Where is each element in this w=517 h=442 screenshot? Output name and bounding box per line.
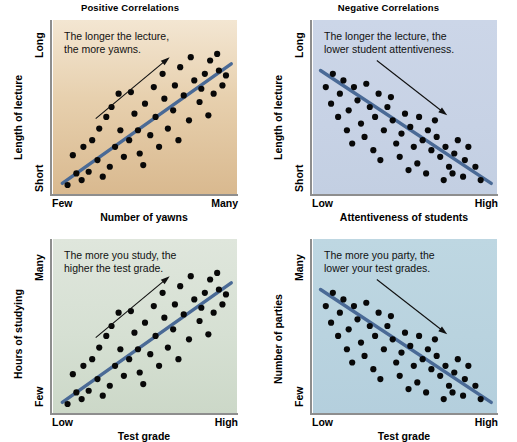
data-point bbox=[330, 71, 336, 77]
x-axis-line bbox=[50, 194, 238, 196]
data-point bbox=[156, 144, 162, 150]
data-point bbox=[186, 336, 192, 342]
data-point bbox=[177, 283, 183, 289]
data-point bbox=[191, 77, 197, 83]
panel-negative-lecture-attentiveness: Negative Correlations Length of lecture … bbox=[260, 0, 517, 219]
data-point bbox=[219, 82, 225, 88]
data-point bbox=[478, 396, 484, 402]
data-point bbox=[152, 333, 158, 339]
data-point bbox=[198, 305, 204, 311]
direction-arrow-shaft bbox=[377, 61, 442, 111]
data-point bbox=[472, 164, 478, 170]
data-point bbox=[216, 67, 222, 73]
data-point bbox=[205, 331, 211, 337]
x-axis-title: Test grade bbox=[50, 430, 238, 442]
x-axis-high-label: High bbox=[428, 197, 498, 209]
data-point bbox=[196, 318, 202, 324]
data-point bbox=[152, 114, 158, 120]
y-axis-line bbox=[50, 20, 52, 196]
data-point bbox=[344, 127, 350, 133]
data-point bbox=[451, 150, 457, 156]
x-axis-high-label: High bbox=[168, 416, 238, 428]
data-point bbox=[330, 290, 336, 296]
direction-arrow-head bbox=[438, 107, 447, 115]
data-point bbox=[172, 301, 178, 307]
data-point bbox=[140, 381, 146, 387]
data-point bbox=[441, 177, 447, 183]
data-point bbox=[64, 182, 70, 188]
data-point bbox=[137, 369, 143, 375]
data-point bbox=[175, 137, 181, 143]
data-point bbox=[441, 396, 447, 402]
x-axis-line bbox=[310, 413, 498, 415]
data-point bbox=[432, 117, 438, 123]
data-point bbox=[216, 286, 222, 292]
y-axis-line bbox=[310, 20, 312, 196]
panel-caption: The more you study, the higher the test … bbox=[64, 249, 239, 275]
data-point bbox=[416, 333, 422, 339]
y-axis-title: Number of parties bbox=[272, 294, 284, 384]
data-point bbox=[151, 84, 157, 90]
y-axis-low-label: Short bbox=[33, 165, 45, 192]
data-point bbox=[472, 383, 478, 389]
data-point bbox=[80, 363, 86, 369]
data-point bbox=[407, 343, 413, 349]
data-point bbox=[398, 130, 404, 136]
direction-arrow-head bbox=[438, 326, 447, 334]
data-point bbox=[449, 170, 455, 176]
data-point bbox=[140, 162, 146, 168]
data-point bbox=[367, 104, 373, 110]
y-axis-title: Length of lecture bbox=[12, 75, 24, 160]
data-point bbox=[377, 376, 383, 382]
data-point bbox=[198, 86, 204, 92]
data-point bbox=[186, 117, 192, 123]
data-point bbox=[462, 376, 468, 382]
data-point bbox=[73, 389, 79, 395]
y-axis-high-label: Long bbox=[33, 32, 45, 58]
data-point bbox=[340, 77, 346, 83]
data-point bbox=[100, 393, 106, 399]
data-point bbox=[94, 376, 100, 382]
data-point bbox=[135, 346, 141, 352]
data-point bbox=[460, 174, 466, 180]
data-point bbox=[437, 373, 443, 379]
data-point bbox=[64, 401, 70, 407]
data-point bbox=[165, 344, 171, 350]
data-point bbox=[196, 99, 202, 105]
x-axis-low-label: Low bbox=[312, 416, 333, 428]
data-point bbox=[393, 140, 399, 146]
data-point bbox=[442, 363, 448, 369]
data-point bbox=[414, 379, 420, 385]
x-axis-line bbox=[310, 194, 498, 196]
data-point bbox=[205, 112, 211, 118]
data-point bbox=[160, 71, 166, 77]
data-point bbox=[354, 316, 360, 322]
data-point bbox=[465, 144, 471, 150]
data-point bbox=[405, 386, 411, 392]
data-point bbox=[478, 177, 484, 183]
data-point bbox=[70, 371, 76, 377]
data-point bbox=[94, 157, 100, 163]
trend-line bbox=[62, 283, 231, 403]
data-point bbox=[147, 351, 153, 357]
data-point bbox=[351, 84, 357, 90]
data-point bbox=[323, 84, 329, 90]
data-point bbox=[420, 356, 426, 362]
data-point bbox=[372, 114, 378, 120]
panel-positive-study-grade: Hours of studying Many Few The more you … bbox=[0, 219, 260, 438]
data-point bbox=[428, 366, 434, 372]
data-point bbox=[397, 154, 403, 160]
data-point bbox=[446, 383, 452, 389]
data-point bbox=[117, 127, 123, 133]
data-point bbox=[416, 114, 422, 120]
data-point bbox=[423, 389, 429, 395]
data-point bbox=[388, 313, 394, 319]
data-point bbox=[451, 369, 457, 375]
y-axis-low-label: Short bbox=[293, 165, 305, 192]
data-point bbox=[346, 107, 352, 113]
data-point bbox=[405, 167, 411, 173]
data-point bbox=[372, 333, 378, 339]
data-point bbox=[161, 315, 167, 321]
x-axis-low-label: Low bbox=[52, 416, 73, 428]
